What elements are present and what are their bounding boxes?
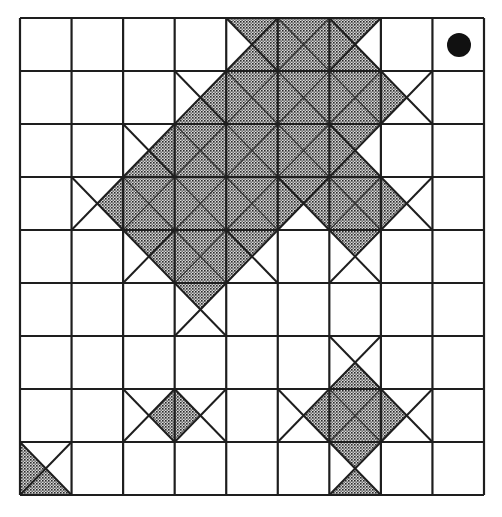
markers [447, 33, 471, 57]
black-dot-icon [447, 33, 471, 57]
tiling-grid-diagram [0, 0, 502, 517]
